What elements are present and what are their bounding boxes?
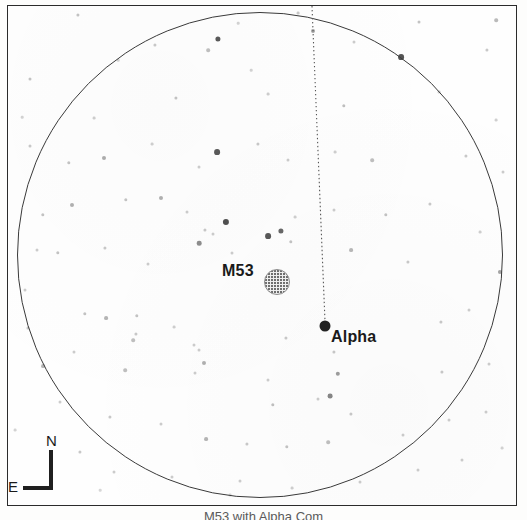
compass-rose: N E xyxy=(10,434,72,498)
figure-caption: M53 with Alpha Com xyxy=(0,509,527,520)
star-chart-figure: M53 Alpha N E M53 with Alpha Com xyxy=(0,0,527,520)
eyepiece-field-of-view-circle xyxy=(17,12,503,498)
compass-north-label: N xyxy=(46,432,57,449)
compass-east-label: E xyxy=(8,478,18,495)
alpha-label: Alpha xyxy=(331,328,376,346)
alpha-star-symbol xyxy=(320,321,331,332)
m53-cluster-symbol xyxy=(264,269,290,295)
compass-north-arm xyxy=(49,450,53,490)
m53-label: M53 xyxy=(222,262,254,280)
compass-east-arm xyxy=(23,486,53,490)
